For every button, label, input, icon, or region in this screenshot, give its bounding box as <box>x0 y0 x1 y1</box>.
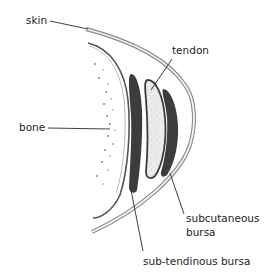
bone <box>88 43 129 218</box>
label-subcutaneous-line2: bursa <box>186 225 259 239</box>
label-subcutaneous-bursa: subcutaneous bursa <box>186 211 259 239</box>
label-skin: skin <box>26 13 47 27</box>
subcutaneous-bursa-leader-line <box>170 173 184 214</box>
label-bone: bone <box>19 120 45 134</box>
bone-marrow-dots <box>94 63 116 185</box>
skin-leader-line <box>50 21 88 29</box>
label-subcutaneous-line1: subcutaneous <box>186 211 259 225</box>
label-tendon: tendon <box>172 43 209 57</box>
sub-tendinous-bursa-shape <box>129 74 142 193</box>
label-sub-tendinous-bursa: sub-tendinous bursa <box>143 254 250 268</box>
sub-tendinous-bursa-leader-line <box>131 190 143 251</box>
tendon-shape <box>145 80 165 178</box>
bone-leader-line <box>48 128 110 129</box>
